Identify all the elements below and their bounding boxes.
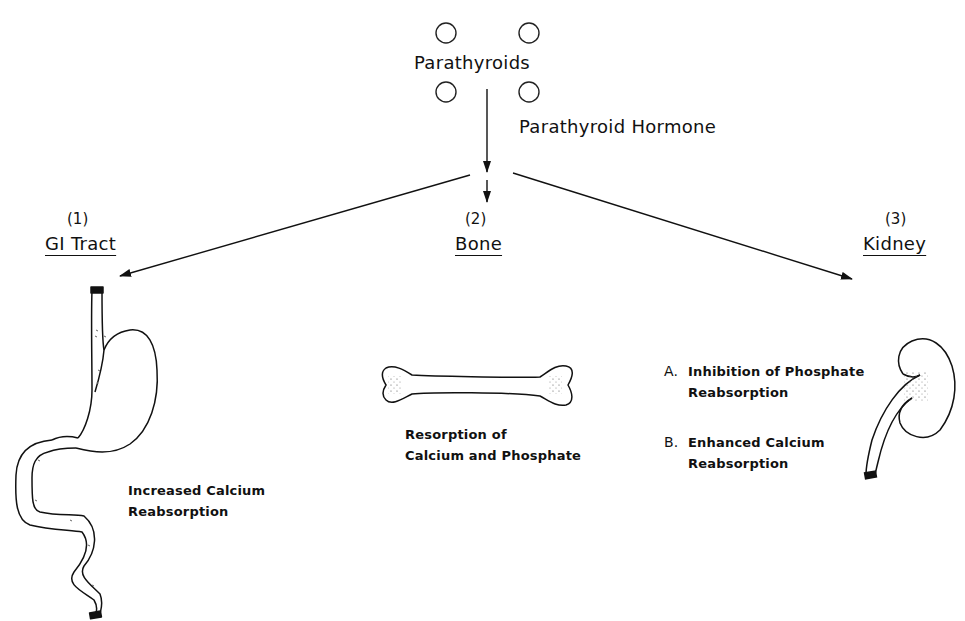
gi-tract-illustration <box>16 287 158 619</box>
parathyroids-label: Parathyroids <box>414 52 530 73</box>
target-number-gi: (1) <box>67 210 88 228</box>
hormone-label: Parathyroid Hormone <box>519 116 716 137</box>
target-title-bone: Bone <box>455 233 502 254</box>
diagram-artwork <box>0 0 965 621</box>
gi-effect-line-2: Reabsorption <box>128 501 229 522</box>
bone-illustration <box>383 366 573 406</box>
target-title-kidney: Kidney <box>863 233 926 254</box>
target-number-bone: (2) <box>465 210 486 228</box>
target-title-gi-tract: GI Tract <box>45 233 116 254</box>
gland-top-right <box>519 23 539 43</box>
bone-effect-line-2: Calcium and Phosphate <box>405 445 581 466</box>
gland-bottom-left <box>436 82 456 102</box>
kidney-effect-a-line-2: Reabsorption <box>688 382 789 403</box>
gi-effect-line-1: Increased Calcium <box>128 480 265 501</box>
gland-bottom-right <box>519 82 539 102</box>
kidney-effect-b-line-1: Enhanced Calcium <box>688 432 825 453</box>
kidney-effect-a-line-1: Inhibition of Phosphate <box>688 361 864 382</box>
kidney-effect-b-line-2: Reabsorption <box>688 453 789 474</box>
kidney-arrow <box>513 173 852 279</box>
gland-top-left <box>436 23 456 43</box>
kidney-effect-b-marker: B. <box>664 432 678 453</box>
kidney-effect-a-marker: A. <box>664 361 678 382</box>
gi-tract-arrow <box>120 175 470 276</box>
target-number-kidney: (3) <box>885 210 906 228</box>
kidney-illustration <box>865 339 955 479</box>
bone-effect-line-1: Resorption of <box>405 424 507 445</box>
